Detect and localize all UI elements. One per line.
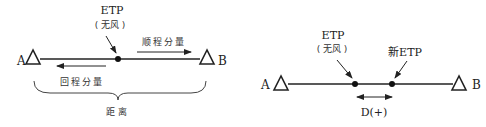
etp-label-right: ETP <box>322 29 345 42</box>
etp-pointer-arrow-icon <box>106 36 116 53</box>
point-b-label-right: B <box>472 78 481 92</box>
etp-point <box>115 56 121 62</box>
point-a-label-right: A <box>260 78 270 92</box>
distance-label: 距离 <box>106 106 130 117</box>
etp-diagram-canvas: A B ETP ( 无风 ) 顺程分量 回程分量 距离 A B ETP ( 无风… <box>0 0 486 127</box>
etp-label: ETP <box>101 4 124 17</box>
point-a-triangle-icon-right <box>274 76 288 90</box>
point-a-label: A <box>16 54 26 68</box>
right-diagram: A B ETP ( 无风 ) 新ETP D(+) <box>260 29 481 119</box>
new-etp-point <box>389 81 395 87</box>
etp-pointer-arrow-icon-right <box>337 60 352 78</box>
new-etp-label: 新ETP <box>388 45 422 59</box>
point-a-triangle-icon <box>26 50 40 64</box>
etp-sublabel-right: ( 无风 ) <box>317 44 348 54</box>
return-component-label: 回程分量 <box>60 77 104 87</box>
etp-sublabel: ( 无风 ) <box>95 20 126 30</box>
point-b-label: B <box>218 54 227 68</box>
outbound-component-label: 顺程分量 <box>142 37 186 47</box>
point-b-triangle-icon-right <box>452 76 466 90</box>
displacement-label: D(+) <box>361 106 388 119</box>
point-b-triangle-icon <box>200 50 214 64</box>
new-etp-pointer-arrow-icon <box>395 61 407 78</box>
etp-point-right <box>352 81 358 87</box>
left-diagram: A B ETP ( 无风 ) 顺程分量 回程分量 距离 <box>16 4 227 117</box>
